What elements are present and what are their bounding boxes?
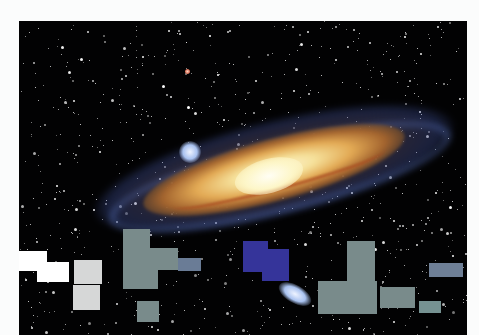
star — [166, 284, 167, 285]
star — [38, 155, 39, 156]
star — [404, 265, 405, 266]
star — [50, 235, 51, 236]
star — [421, 220, 422, 221]
overlay-block-teal-7 — [380, 287, 415, 308]
star — [248, 56, 250, 58]
star — [428, 34, 429, 35]
star — [429, 38, 430, 39]
star — [413, 25, 414, 26]
star — [453, 104, 454, 105]
star — [269, 309, 271, 311]
star — [54, 311, 55, 312]
star — [311, 233, 312, 234]
star — [449, 22, 451, 24]
star — [128, 55, 129, 56]
star — [103, 35, 105, 37]
star — [347, 46, 349, 48]
star — [134, 106, 135, 107]
star — [396, 249, 397, 250]
star — [382, 241, 385, 244]
star — [370, 328, 371, 329]
star — [297, 244, 298, 245]
star — [218, 104, 219, 105]
star — [228, 120, 229, 121]
star — [341, 213, 342, 214]
star — [346, 29, 347, 30]
star — [142, 109, 143, 110]
star — [455, 169, 456, 170]
star — [46, 204, 47, 205]
star — [252, 280, 253, 281]
star — [306, 271, 307, 272]
star — [241, 123, 243, 125]
star — [25, 279, 27, 281]
star — [186, 42, 187, 43]
star — [137, 87, 138, 88]
star — [261, 101, 264, 104]
star — [126, 292, 127, 293]
star — [397, 228, 399, 230]
star — [43, 85, 44, 86]
star — [465, 253, 467, 255]
star — [331, 260, 332, 261]
star — [456, 51, 457, 52]
star — [367, 64, 368, 65]
star — [304, 243, 307, 246]
star — [373, 67, 374, 68]
star — [356, 83, 357, 84]
star — [194, 274, 197, 277]
star — [431, 232, 433, 234]
galaxy-photo — [19, 21, 467, 335]
star — [348, 327, 351, 330]
star — [270, 109, 271, 110]
overlay-block-white-2 — [37, 262, 69, 282]
star — [283, 307, 284, 308]
star — [26, 225, 27, 226]
star — [174, 314, 175, 315]
star — [145, 152, 146, 153]
star — [71, 311, 73, 313]
star — [393, 46, 394, 47]
star — [229, 258, 232, 261]
star — [214, 97, 216, 99]
star — [229, 306, 230, 307]
star — [21, 205, 24, 208]
star — [363, 217, 364, 218]
star — [452, 255, 454, 257]
star — [219, 124, 220, 125]
star — [284, 29, 285, 30]
star — [414, 78, 415, 79]
star — [141, 44, 143, 46]
star — [146, 111, 147, 112]
star — [249, 92, 250, 93]
star — [103, 94, 104, 95]
star — [60, 192, 61, 193]
star — [450, 79, 451, 80]
star — [430, 45, 431, 46]
star — [81, 254, 82, 255]
star — [148, 55, 149, 56]
star — [192, 108, 193, 109]
star — [33, 322, 34, 323]
star — [321, 75, 322, 76]
star — [219, 230, 221, 232]
star — [150, 234, 152, 236]
overlay-block-teal-4 — [137, 301, 159, 322]
star — [261, 316, 262, 317]
star — [74, 228, 77, 231]
star — [418, 96, 419, 97]
star — [409, 80, 411, 82]
star — [166, 52, 167, 53]
star — [72, 233, 73, 234]
star — [359, 33, 360, 34]
star — [441, 37, 442, 38]
star — [274, 228, 275, 229]
star — [66, 66, 67, 67]
star — [211, 86, 212, 87]
star — [288, 112, 289, 113]
star — [65, 324, 66, 325]
star — [332, 315, 333, 316]
star — [152, 73, 154, 75]
star — [356, 236, 357, 237]
star — [257, 311, 258, 312]
